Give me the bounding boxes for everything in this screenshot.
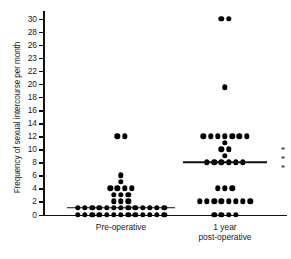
data-point [244, 134, 249, 139]
y-axis-line [43, 11, 45, 216]
data-point [104, 212, 109, 217]
data-point [219, 147, 224, 152]
data-point [233, 199, 238, 204]
tick-mark [39, 175, 44, 176]
data-point [122, 134, 127, 139]
data-point [240, 199, 245, 204]
data-point [125, 212, 130, 217]
tick-mark [39, 84, 44, 85]
tick-mark [39, 45, 44, 46]
data-point [222, 134, 227, 139]
data-point [222, 153, 227, 158]
data-point [75, 212, 80, 217]
tick-mark [39, 136, 44, 137]
data-point [129, 186, 134, 191]
median-line [183, 162, 267, 164]
data-point [219, 199, 224, 204]
tick-label: 12 [28, 132, 37, 140]
data-point [222, 140, 227, 145]
y-axis-title: Frequency of sexual intercourse per mont… [13, 18, 22, 218]
data-point [226, 212, 231, 217]
data-point [82, 212, 87, 217]
data-point [204, 199, 209, 204]
data-point [161, 212, 166, 217]
tick-mark [39, 149, 44, 150]
data-point [118, 199, 123, 204]
tick-label: 18 [28, 93, 37, 101]
data-point [125, 192, 130, 197]
data-point [140, 212, 145, 217]
data-point [154, 212, 159, 217]
data-point [219, 16, 224, 21]
x-group-label-pre-operative: Pre-operative [96, 222, 146, 232]
data-point [111, 212, 116, 217]
tick-label: 26 [28, 41, 37, 49]
tick-mark [39, 188, 44, 189]
tick-mark [39, 110, 44, 111]
data-point [111, 192, 116, 197]
data-point [215, 186, 220, 191]
data-point [226, 147, 231, 152]
tick-label: 4 [32, 184, 37, 192]
data-point [122, 186, 127, 191]
tick-mark [39, 162, 44, 163]
significance-annotation: * * * [281, 146, 286, 173]
data-point [247, 199, 252, 204]
data-point [118, 173, 123, 178]
tick-label: 0 [32, 210, 37, 218]
tick-label: 10 [28, 145, 37, 153]
tick-label: 30 [28, 15, 37, 23]
tick-mark [39, 123, 44, 124]
tick-label: 8 [32, 158, 37, 166]
data-point [211, 199, 216, 204]
data-point [226, 16, 231, 21]
data-point [118, 212, 123, 217]
tick-mark [39, 201, 44, 202]
tick-mark [39, 71, 44, 72]
data-point [233, 212, 238, 217]
tick-mark [39, 58, 44, 59]
tick-label: 2 [32, 197, 37, 205]
data-point [219, 212, 224, 217]
data-point [107, 186, 112, 191]
plot-area: 024681012141618202223262830 * * * Pre-op… [43, 11, 287, 216]
tick-label: 16 [28, 106, 37, 114]
tick-label: 28 [28, 28, 37, 36]
tick-mark [39, 215, 44, 216]
data-point [97, 212, 102, 217]
data-point [229, 186, 234, 191]
tick-label: 14 [28, 119, 37, 127]
data-point [147, 212, 152, 217]
data-point [229, 134, 234, 139]
tick-label: 23 [28, 54, 37, 62]
data-point [197, 199, 202, 204]
data-point [237, 134, 242, 139]
tick-label: 20 [28, 80, 37, 88]
dot-plot-figure: Frequency of sexual intercourse per mont… [0, 0, 291, 259]
tick-mark [39, 97, 44, 98]
tick-label: 6 [32, 171, 37, 179]
data-point [115, 134, 120, 139]
median-line [67, 207, 175, 209]
data-point [211, 212, 216, 217]
tick-label: 22 [28, 67, 37, 75]
tick-mark [39, 32, 44, 33]
x-group-label-post-operative: 1 year post-operative [198, 222, 251, 242]
data-point [125, 199, 130, 204]
data-point [118, 179, 123, 184]
data-point [215, 134, 220, 139]
data-point [133, 212, 138, 217]
data-point [111, 199, 116, 204]
data-point [201, 134, 206, 139]
data-point [89, 212, 94, 217]
data-point [222, 186, 227, 191]
data-point [222, 85, 227, 90]
data-point [118, 192, 123, 197]
data-point [208, 134, 213, 139]
data-point [115, 186, 120, 191]
tick-mark [39, 19, 44, 20]
data-point [226, 199, 231, 204]
